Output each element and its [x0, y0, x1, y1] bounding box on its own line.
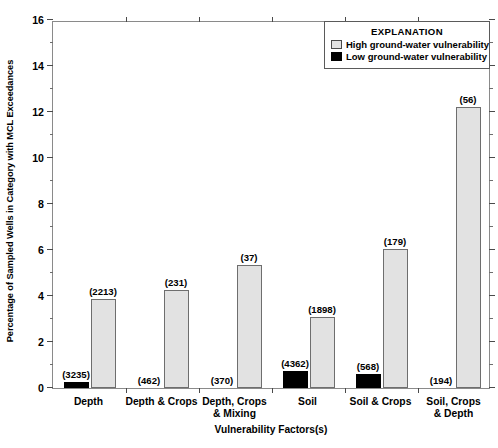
bar-count-low: (3235) — [62, 370, 90, 380]
y-tick-label: 8 — [38, 198, 44, 210]
bar-high-vulnerability — [91, 299, 116, 388]
y-tick-major-right — [489, 295, 495, 296]
y-tick-minor — [50, 226, 54, 227]
y-tick-major — [47, 203, 53, 204]
bar-high-vulnerability — [164, 290, 189, 388]
y-tick-major-right — [489, 203, 495, 204]
y-axis-title: Percentage of Sampled Wells in Category … — [5, 15, 15, 387]
x-tick-bottom — [199, 388, 200, 393]
legend-entry-high: High ground-water vulnerability — [325, 39, 489, 50]
y-tick-major — [47, 65, 53, 66]
y-tick-minor-right — [489, 226, 493, 227]
y-tick-minor — [50, 364, 54, 365]
bar-low-vulnerability — [64, 382, 89, 388]
x-tick-bottom — [418, 388, 419, 393]
bar-count-high: (1898) — [308, 305, 336, 315]
bar-high-vulnerability — [237, 265, 262, 388]
x-tick-bottom — [272, 388, 273, 393]
low-vulnerability-swatch — [331, 52, 342, 61]
y-tick-minor — [50, 88, 54, 89]
y-tick-minor — [50, 180, 54, 181]
y-tick-major — [47, 19, 53, 20]
bar-low-vulnerability — [283, 371, 308, 388]
x-tick-bottom — [345, 388, 346, 393]
y-tick-major-right — [489, 387, 495, 388]
y-tick-label: 10 — [32, 152, 44, 164]
y-tick-label: 2 — [38, 336, 44, 348]
bar-chart-figure: Percentage of Sampled Wells in Category … — [0, 0, 498, 448]
y-tick-major-right — [489, 249, 495, 250]
y-tick-minor-right — [489, 364, 493, 365]
bar-count-low: (568) — [357, 362, 379, 372]
high-vulnerability-swatch — [331, 40, 342, 49]
y-tick-major — [47, 295, 53, 296]
bar-count-high: (179) — [384, 237, 406, 247]
bar-count-high: (231) — [165, 278, 187, 288]
bar-count-low: (4362) — [281, 359, 309, 369]
y-tick-major — [47, 387, 53, 388]
x-tick-top — [272, 17, 273, 22]
y-tick-minor-right — [489, 134, 493, 135]
y-tick-label: 6 — [38, 244, 44, 256]
bar-count-low: (462) — [138, 376, 160, 386]
bar-high-vulnerability — [383, 249, 408, 388]
x-axis-title: Vulnerability Factors(s) — [52, 424, 490, 435]
legend-label-high: High ground-water vulnerability — [346, 39, 489, 50]
y-tick-minor-right — [489, 272, 493, 273]
y-tick-minor — [50, 42, 54, 43]
legend-title: EXPLANATION — [325, 26, 489, 37]
y-tick-major-right — [489, 111, 495, 112]
legend: EXPLANATION High ground-water vulnerabil… — [324, 21, 490, 69]
y-tick-label: 14 — [32, 60, 44, 72]
bar-count-high: (56) — [459, 95, 476, 105]
y-tick-label: 4 — [38, 290, 44, 302]
x-category-label: Soil, Crops & Depth — [411, 396, 496, 421]
y-tick-major — [47, 157, 53, 158]
x-tick-top — [199, 17, 200, 22]
bar-high-vulnerability — [456, 107, 481, 388]
y-tick-major-right — [489, 341, 495, 342]
y-tick-major-right — [489, 19, 495, 20]
bar-high-vulnerability — [310, 317, 335, 388]
bar-count-low: (370) — [211, 376, 233, 386]
legend-label-low: Low ground-water vulnerability — [346, 51, 487, 62]
y-tick-major — [47, 111, 53, 112]
y-tick-label: 0 — [38, 382, 44, 394]
y-tick-label: 12 — [32, 106, 44, 118]
y-tick-label: 16 — [32, 14, 44, 26]
x-tick-top — [126, 17, 127, 22]
y-tick-major — [47, 341, 53, 342]
y-tick-minor-right — [489, 318, 493, 319]
y-tick-major-right — [489, 157, 495, 158]
bar-low-vulnerability — [356, 374, 381, 388]
y-tick-minor-right — [489, 180, 493, 181]
y-tick-minor — [50, 134, 54, 135]
x-tick-bottom — [126, 388, 127, 393]
bar-count-low: (194) — [430, 376, 452, 386]
bar-count-high: (2213) — [89, 287, 117, 297]
legend-entry-low: Low ground-water vulnerability — [325, 51, 489, 62]
bar-count-high: (37) — [240, 253, 257, 263]
y-tick-minor-right — [489, 88, 493, 89]
y-tick-minor — [50, 272, 54, 273]
y-tick-minor — [50, 318, 54, 319]
plot-area: 0246810121416 (3235)(2213)(462)(231)(370… — [52, 21, 490, 389]
y-tick-major — [47, 249, 53, 250]
